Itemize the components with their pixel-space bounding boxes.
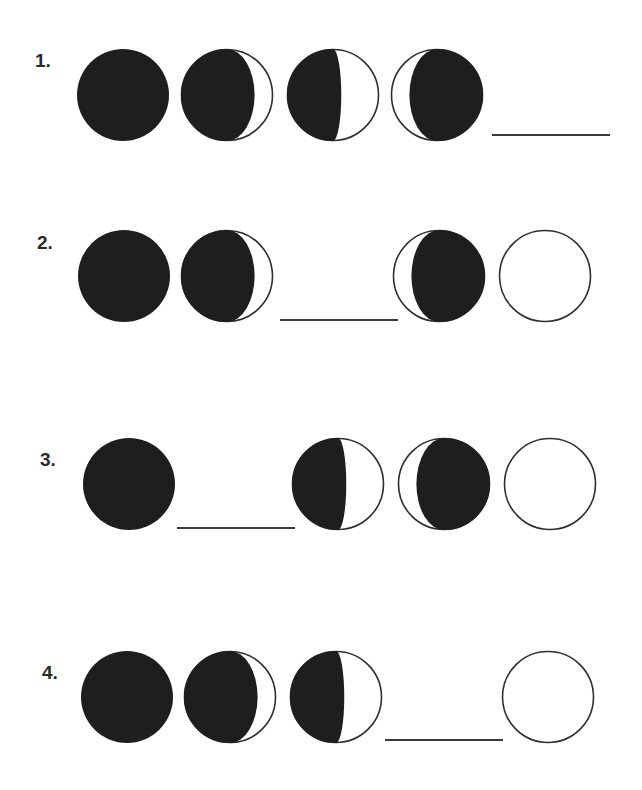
- moon-full-moon-icon: [503, 652, 594, 743]
- moon-waning-crescent-left-lit-icon: [399, 438, 491, 530]
- moon-full-moon-icon: [505, 439, 596, 530]
- moon-first-quarter-icon: [290, 651, 382, 743]
- moon-first-quarter-icon: [292, 438, 384, 530]
- row-2: [78, 230, 591, 322]
- moon-phase-worksheet: [0, 0, 642, 790]
- moon-waxing-crescent-icon: [181, 230, 273, 322]
- row-4: [81, 651, 594, 743]
- moon-waxing-crescent-icon: [184, 651, 276, 743]
- moon-new-moon-icon: [78, 230, 170, 322]
- moon-new-moon-icon: [81, 651, 173, 743]
- moon-waning-crescent-left-lit-icon: [392, 49, 484, 141]
- row-1: [77, 49, 610, 141]
- row-3: [83, 438, 596, 530]
- moon-waxing-crescent-icon: [181, 49, 273, 141]
- moon-new-moon-icon: [77, 49, 169, 141]
- moon-new-moon-icon: [83, 438, 175, 530]
- moon-full-moon-icon: [500, 231, 591, 322]
- moon-waning-crescent-left-lit-icon: [394, 230, 486, 322]
- moon-first-quarter-icon: [287, 49, 379, 141]
